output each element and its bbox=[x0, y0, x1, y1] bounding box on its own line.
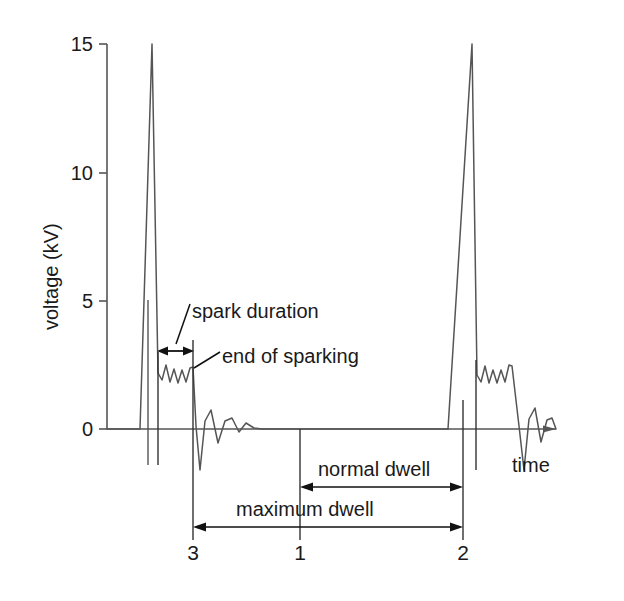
y-tick-label-15: 15 bbox=[63, 34, 93, 54]
spark-duration-leader bbox=[176, 304, 190, 344]
chart-figure: 15 10 5 0 voltage (kV) time spark durati… bbox=[0, 0, 624, 601]
marker-label-3: 3 bbox=[181, 542, 205, 563]
annotation-maximum-dwell: maximum dwell bbox=[236, 499, 374, 519]
annotation-spark-duration: spark duration bbox=[192, 301, 319, 321]
end-of-sparking-leader bbox=[194, 352, 220, 368]
y-tick-label-0: 0 bbox=[63, 419, 93, 439]
waveform-trace-cycle-2 bbox=[448, 44, 556, 470]
maximum-dwell-arrowhead-left bbox=[193, 523, 206, 532]
y-axis-title: voltage (kV) bbox=[40, 223, 63, 330]
normal-dwell-arrowhead-right bbox=[450, 483, 463, 492]
voltage-trace-group bbox=[107, 44, 556, 470]
marker-label-1: 1 bbox=[288, 542, 312, 563]
marker-label-2: 2 bbox=[451, 542, 475, 563]
y-tick-label-10: 10 bbox=[63, 163, 93, 183]
annotation-normal-dwell: normal dwell bbox=[318, 459, 430, 479]
normal-dwell-arrowhead-left bbox=[300, 483, 313, 492]
maximum-dwell-arrowhead-right bbox=[450, 523, 463, 532]
annotation-end-of-sparking: end of sparking bbox=[222, 346, 359, 366]
y-tick-label-5: 5 bbox=[63, 291, 93, 311]
x-axis-title: time bbox=[512, 455, 550, 475]
